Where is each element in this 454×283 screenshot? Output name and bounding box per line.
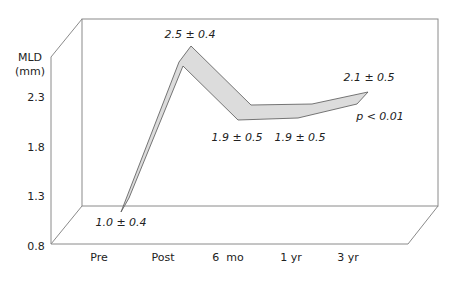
y-tick-label: 1.8 [27, 141, 45, 154]
point-label-pre: 1.0 ± 0.4 [95, 216, 146, 229]
top-left-depth-edge [51, 19, 82, 57]
x-tick-label: 3 yr [337, 251, 359, 264]
p-value-annotation: p < 0.01 [355, 110, 404, 123]
y-tick-label: 0.8 [27, 240, 45, 253]
mld-chart: MLD (mm) 2.3 1.8 1.3 0.8 Pre Post 6 mo 1… [0, 0, 454, 283]
x-tick-label: Pre [90, 251, 108, 264]
x-tick-label: 6 mo [212, 251, 244, 264]
point-label-3yr: 2.1 ± 0.5 [343, 71, 394, 84]
bottom-left-depth-edge [51, 206, 82, 244]
y-axis-title-line1: MLD [18, 51, 42, 64]
y-axis-title-line2: (mm) [15, 65, 45, 78]
point-label-1yr: 1.9 ± 0.5 [274, 131, 325, 144]
x-tick-label: Post [151, 251, 175, 264]
data-ribbon [121, 46, 368, 212]
bottom-right-depth-edge [408, 206, 438, 244]
x-tick-label: 1 yr [280, 251, 302, 264]
y-tick-label: 1.3 [27, 190, 45, 203]
point-label-6mo: 1.9 ± 0.5 [211, 131, 262, 144]
point-label-post: 2.5 ± 0.4 [164, 28, 215, 41]
y-tick-label: 2.3 [27, 91, 45, 104]
